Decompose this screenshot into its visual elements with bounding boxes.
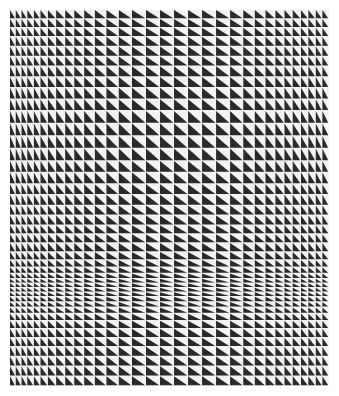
op-art-triangle-grid (10, 10, 329, 386)
triangle-grid-svg (10, 10, 329, 386)
